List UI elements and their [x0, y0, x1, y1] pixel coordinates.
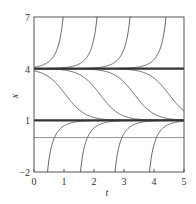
solution-curves-chart: 012345 741−2 t x	[0, 0, 196, 204]
y-tick-label: 1	[25, 115, 30, 126]
y-tick-label: −2	[19, 167, 30, 178]
x-axis-label: t	[106, 187, 109, 198]
x-tick-label: 0	[32, 176, 37, 187]
y-axis-ticks: 741−2	[19, 12, 30, 178]
solution-curve	[34, 17, 131, 69]
equilibrium-lines	[34, 69, 184, 138]
solution-curve	[115, 120, 184, 172]
x-tick-label: 3	[122, 176, 127, 187]
x-tick-label: 1	[62, 176, 67, 187]
solution-curve	[34, 17, 98, 69]
solution-curve	[34, 69, 184, 120]
x-tick-label: 4	[152, 176, 157, 187]
solution-curve	[34, 69, 184, 111]
solution-curves	[34, 17, 184, 172]
solution-curve	[34, 69, 184, 121]
x-tick-label: 5	[182, 176, 187, 187]
solution-curve	[81, 120, 185, 172]
solution-curve	[34, 17, 64, 67]
x-tick-label: 2	[92, 176, 97, 187]
y-axis-label: x	[9, 93, 20, 99]
solution-curve	[150, 121, 185, 172]
plot-frame	[34, 17, 184, 172]
solution-curve	[34, 71, 184, 121]
y-tick-label: 7	[25, 12, 30, 23]
y-tick-label: 4	[25, 64, 30, 75]
solution-curve	[34, 17, 166, 69]
